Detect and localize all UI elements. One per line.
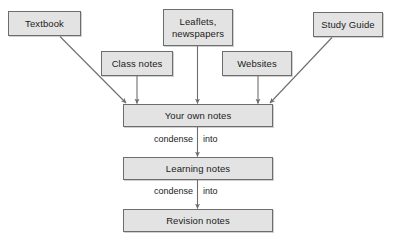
node-revision-notes-label: Revision notes	[124, 215, 272, 227]
node-websites: Websites	[222, 51, 292, 76]
edge-label-condense-2: condense	[148, 186, 193, 197]
node-learning-notes-label: Learning notes	[124, 163, 272, 175]
node-your-own-notes: Your own notes	[123, 104, 273, 127]
node-leaflets-label-line2: newspapers	[164, 28, 232, 40]
node-websites-label: Websites	[223, 58, 291, 70]
node-your-own-notes-label: Your own notes	[124, 110, 272, 122]
node-learning-notes: Learning notes	[123, 157, 273, 180]
node-class-notes-label: Class notes	[102, 58, 172, 70]
node-textbook: Textbook	[8, 11, 81, 36]
diagram-canvas: Textbook Leaflets, newspapers Study Guid…	[0, 0, 393, 240]
node-leaflets-newspapers: Leaflets, newspapers	[163, 9, 233, 46]
node-study-guide: Study Guide	[313, 12, 383, 37]
edge-label-into-2: into	[203, 186, 243, 197]
node-leaflets-label-line1: Leaflets,	[164, 16, 232, 28]
edge-label-into-1: into	[203, 134, 243, 145]
node-class-notes: Class notes	[101, 51, 173, 76]
edge-label-condense-1: condense	[148, 134, 193, 145]
node-revision-notes: Revision notes	[123, 209, 273, 232]
node-study-guide-label: Study Guide	[314, 19, 382, 31]
node-textbook-label: Textbook	[9, 18, 80, 30]
